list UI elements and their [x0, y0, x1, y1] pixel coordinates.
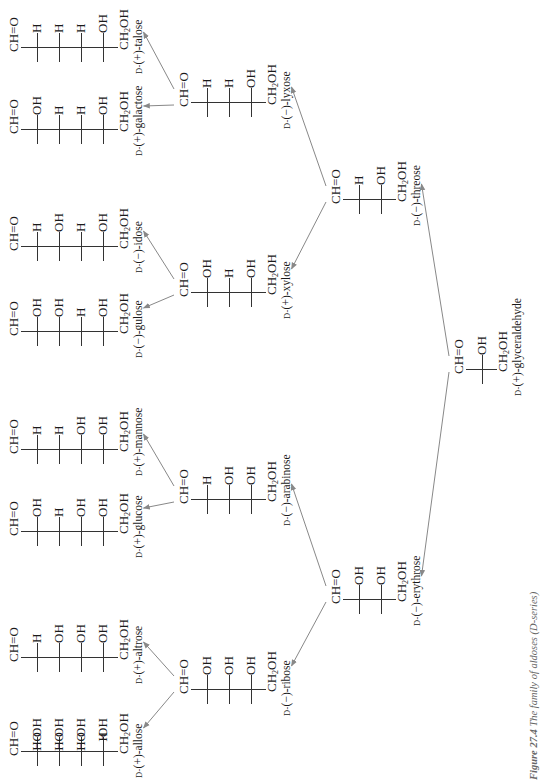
- right-substituent: OH: [352, 566, 366, 585]
- right-substituent: H: [74, 24, 88, 33]
- aldehyde-group: CH=O: [176, 469, 192, 504]
- stereocenter-bond: [81, 115, 82, 144]
- hydroxymethyl-group: CH2OH: [116, 9, 132, 50]
- arrow-lyxose-to-talose: [144, 32, 175, 89]
- right-substituent: OH: [74, 416, 88, 435]
- right-substituent: OH: [30, 498, 44, 517]
- right-substituent: OH: [30, 96, 44, 115]
- arrow-threose-to-xylose: [292, 202, 327, 269]
- right-substituent: OH: [74, 624, 88, 643]
- compound-name-allose: D-(+)-allose: [132, 724, 144, 778]
- right-substituent: H: [200, 79, 214, 88]
- hydroxymethyl-group: CH2OH: [264, 651, 280, 692]
- right-substituent: H: [222, 269, 236, 278]
- aldehyde-group: CH=O: [176, 659, 192, 694]
- stereocenter-bond: [37, 517, 38, 546]
- stereocenter-bond: [59, 435, 60, 464]
- arrow-lyxose-to-galactose: [144, 105, 175, 106]
- right-substituent: OH: [200, 259, 214, 278]
- aldehyde-group: CH=O: [176, 72, 192, 107]
- stereocenter-bond: [251, 675, 252, 704]
- compound-name-glyceraldehyde: D-(+)-glyceraldehyde: [511, 298, 523, 396]
- arrow-arabinose-to-mannose: [144, 434, 175, 486]
- right-substituent: H: [200, 476, 214, 485]
- figure-caption: Figure 27.4 The family of aldoses (D-ser…: [528, 592, 539, 780]
- compound-name-xylose: D-(+)-xylose: [280, 261, 292, 319]
- stereocenter-bond: [81, 33, 82, 62]
- aldehyde-group: CH=O: [6, 99, 22, 134]
- compound-name-mannose: D-(+)-mannose: [132, 408, 144, 476]
- right-substituent: OH: [52, 624, 66, 643]
- hydroxymethyl-group: CH2OH: [264, 461, 280, 502]
- left-substituent: H: [96, 732, 110, 741]
- compound-name-threose: D-(−)-threose: [410, 165, 422, 226]
- right-substituent: H: [74, 223, 88, 232]
- stereocenter-bond: [81, 517, 82, 546]
- right-substituent: OH: [96, 14, 110, 33]
- stereocenter-bond: [103, 435, 104, 464]
- right-substituent: OH: [374, 166, 388, 185]
- stereocenter-bond: [381, 585, 382, 614]
- right-substituent: H: [222, 79, 236, 88]
- right-substituent: H: [30, 223, 44, 232]
- right-substituent: OH: [244, 69, 258, 88]
- stereocenter-bond: [229, 88, 230, 117]
- left-substituent: HO: [74, 732, 88, 751]
- hydroxymethyl-group: CH2OH: [264, 254, 280, 295]
- compound-name-idose: D-(−)-idose: [132, 221, 144, 273]
- hydroxymethyl-group: CH2OH: [116, 91, 132, 132]
- right-substituent: OH: [374, 566, 388, 585]
- stereocenter-bond: [103, 317, 104, 346]
- right-substituent: OH: [96, 624, 110, 643]
- aldehyde-group: CH=O: [6, 301, 22, 336]
- arrow-erythrose-to-arabinose: [292, 484, 327, 586]
- aldehyde-group: CH=O: [6, 17, 22, 52]
- right-substituent: H: [74, 106, 88, 115]
- right-substituent: H: [352, 176, 366, 185]
- aldehyde-group: CH=O: [6, 501, 22, 536]
- stereocenter-bond: [381, 185, 382, 214]
- left-substituent: HO: [30, 732, 44, 751]
- hydroxymethyl-group: CH2OH: [495, 331, 511, 372]
- aldehyde-group: CH=O: [6, 419, 22, 454]
- right-substituent: OH: [74, 498, 88, 517]
- stereocenter-bond: [359, 585, 360, 614]
- hydroxymethyl-group: CH2OH: [116, 493, 132, 534]
- right-substituent: H: [74, 308, 88, 317]
- arrow-erythrose-to-ribose: [292, 602, 327, 666]
- aldehyde-group: CH=O: [328, 569, 344, 604]
- stereocenter-bond: [103, 33, 104, 62]
- right-substituent: OH: [52, 298, 66, 317]
- aldehyde-group: CH=O: [6, 627, 22, 662]
- stereocenter-bond: [207, 278, 208, 307]
- carbon-backbone: [343, 599, 396, 600]
- arrow-glyceraldehyde-to-threose: [422, 184, 450, 356]
- stereocenter-bond: [251, 485, 252, 514]
- right-substituent: H: [52, 426, 66, 435]
- stereocenter-bond: [37, 33, 38, 62]
- right-substituent: OH: [96, 498, 110, 517]
- caption-label: Figure 27.4: [528, 729, 539, 780]
- right-substituent: OH: [222, 466, 236, 485]
- right-substituent: H: [30, 634, 44, 643]
- compound-name-gulose: D-(−)-gulose: [132, 300, 144, 358]
- aldose-family-diagram: CH=OHOHCH2OHD-(+)-glyceraldehydeCH=OHOHH…: [0, 0, 548, 780]
- compound-name-glucose: D-(+)-glucose: [132, 495, 144, 558]
- hydroxymethyl-group: CH2OH: [116, 713, 132, 754]
- arrow-ribose-to-allose: [144, 692, 175, 728]
- compound-name-galactose: D-(+)-galactose: [132, 86, 144, 156]
- stereocenter-bond: [59, 115, 60, 144]
- aldehyde-group: CH=O: [176, 262, 192, 297]
- aldehyde-group: CH=O: [451, 339, 467, 374]
- right-substituent: H: [30, 24, 44, 33]
- carbon-backbone: [191, 292, 266, 293]
- carbon-backbone: [466, 369, 497, 370]
- carbon-backbone: [343, 199, 396, 200]
- right-substituent: OH: [222, 656, 236, 675]
- stereocenter-bond: [482, 355, 483, 384]
- stereocenter-bond: [37, 643, 38, 672]
- right-substituent: H: [52, 508, 66, 517]
- stereocenter-bond: [37, 115, 38, 144]
- right-substituent: OH: [52, 213, 66, 232]
- stereocenter-bond: [59, 232, 60, 261]
